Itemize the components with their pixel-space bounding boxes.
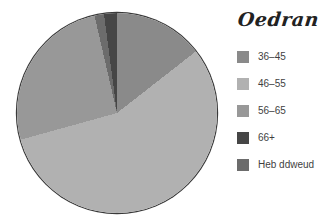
chart-title: Oedran — [237, 8, 329, 30]
legend-swatch-66-plus — [237, 132, 249, 144]
legend-label-56-65: 56–65 — [258, 105, 286, 117]
legend: 36–45 46–55 56–65 66+ Heb ddweud — [237, 51, 314, 186]
legend-item-56-65: 56–65 — [237, 105, 314, 117]
legend-swatch-56-65 — [237, 105, 249, 117]
legend-item-66-plus: 66+ — [237, 132, 314, 144]
chart-canvas: Oedran 36–45 46–55 56–65 66+ Heb ddweud — [0, 0, 331, 222]
legend-item-36-45: 36–45 — [237, 51, 314, 63]
legend-swatch-46-55 — [237, 78, 249, 90]
legend-label-66-plus: 66+ — [258, 132, 275, 144]
legend-label-heb-ddweud: Heb ddweud — [258, 159, 314, 171]
legend-item-heb-ddweud: Heb ddweud — [237, 159, 314, 171]
legend-swatch-heb-ddweud — [237, 159, 249, 171]
legend-swatch-36-45 — [237, 51, 249, 63]
pie-chart — [17, 13, 217, 213]
legend-item-46-55: 46–55 — [237, 78, 314, 90]
legend-label-36-45: 36–45 — [258, 51, 286, 63]
legend-label-46-55: 46–55 — [258, 78, 286, 90]
